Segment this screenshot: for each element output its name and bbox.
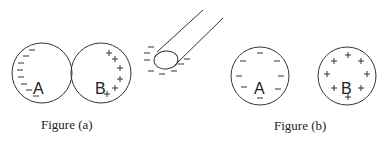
fig-b-label-b: B: [341, 80, 352, 98]
fig-b-label-a: A: [254, 80, 265, 98]
figure-b-caption: Figure (b): [274, 118, 326, 134]
figure-a-caption: Figure (a): [41, 117, 93, 133]
fig-a-label-b: B: [95, 80, 106, 98]
fig-a-b-charges: [104, 50, 123, 97]
fig-a-label-a: A: [33, 80, 44, 98]
charged-rod: [153, 10, 223, 70]
charge-induction-diagram: A B A B Figure (a) Figure (b): [0, 0, 384, 144]
